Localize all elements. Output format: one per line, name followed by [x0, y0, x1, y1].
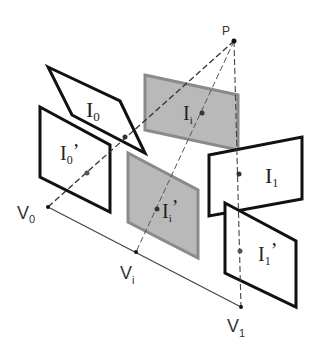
camera-center-v1 [239, 305, 243, 309]
label-p: P [222, 24, 230, 38]
label-v1: V1 [227, 316, 245, 339]
projection-dot-Ii-prime [155, 207, 160, 212]
projection-dot-I1-prime [238, 249, 243, 254]
plane-Ii [145, 75, 238, 150]
label-vi: Vi [120, 263, 134, 286]
projection-dot-I0-prime [85, 171, 90, 176]
projection-dot-I1 [237, 172, 242, 177]
camera-center-v0 [46, 205, 50, 209]
projection-dot-I0 [123, 135, 128, 140]
projection-dot-Ii [200, 111, 205, 116]
diagram-canvas: P I0 I0’ Ii Ii’ I1 I1’ V0 Vi V1 [0, 0, 318, 355]
label-v0: V0 [17, 203, 35, 225]
point-p [232, 39, 237, 44]
camera-center-vi [134, 250, 138, 254]
plane-I1 [209, 137, 302, 216]
